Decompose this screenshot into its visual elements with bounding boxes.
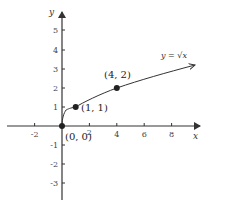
function-label: y = √x (160, 51, 187, 60)
point-label-1-1: (1, 1) (81, 102, 108, 113)
svg-text:5: 5 (53, 26, 58, 35)
point-0-0 (59, 123, 65, 129)
svg-text:4: 4 (114, 130, 119, 139)
y-axis-label: y (48, 7, 55, 17)
point-1-1 (73, 104, 79, 110)
svg-text:-2: -2 (50, 160, 58, 169)
svg-text:-1: -1 (50, 141, 58, 150)
svg-text:-2: -2 (31, 130, 39, 139)
point-label-4-2: (4, 2) (104, 69, 131, 80)
svg-text:-3: -3 (50, 179, 58, 188)
point-4-2 (114, 85, 120, 91)
x-tick-labels: -2 2 4 6 8 (31, 128, 174, 139)
sqrt-graph: -2 2 4 6 8 -3 -2 -1 1 2 3 4 5 x y (0, 0)… (0, 0, 243, 209)
point-label-0-0: (0, 0) (65, 131, 92, 142)
svg-text:8: 8 (169, 130, 174, 139)
y-tick-labels: -3 -2 -1 1 2 3 4 5 (50, 26, 58, 188)
svg-text:2: 2 (53, 84, 58, 93)
svg-text:3: 3 (53, 65, 58, 74)
x-axis-label: x (193, 131, 198, 141)
svg-text:1: 1 (53, 103, 58, 112)
svg-text:4: 4 (53, 46, 58, 55)
svg-text:6: 6 (142, 130, 147, 139)
